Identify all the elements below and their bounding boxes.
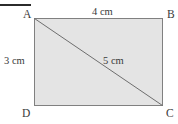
vertex-label-d: D	[22, 108, 30, 120]
measure-label-left-side: 3 cm	[4, 56, 25, 67]
measure-label-top-side: 4 cm	[92, 7, 113, 18]
vertex-label-b: B	[167, 9, 175, 21]
vertex-label-c: C	[166, 108, 174, 120]
measure-label-diagonal: 5 cm	[103, 56, 124, 67]
geometry-figure: A B C D 4 cm 3 cm 5 cm	[0, 0, 178, 124]
vertex-label-a: A	[23, 9, 31, 21]
